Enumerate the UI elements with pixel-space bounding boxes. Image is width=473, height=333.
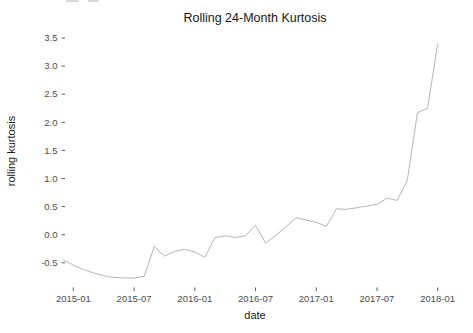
chart-title: Rolling 24-Month Kurtosis — [183, 11, 326, 25]
y-tick-label: 1.0 — [44, 173, 57, 184]
x-axis-ticks: 2015-012015-072016-012016-072017-012017-… — [56, 288, 455, 304]
x-tick-label: 2017-07 — [360, 293, 395, 304]
x-tick-label: 2015-07 — [117, 293, 152, 304]
y-tick-label: 3.5 — [44, 32, 57, 43]
y-tick-label: 0.5 — [44, 201, 57, 212]
x-axis-title: date — [244, 309, 265, 321]
y-axis-ticks: 3.53.02.52.01.51.00.50.0-0.5 — [41, 32, 65, 268]
x-tick-label: 2018-01 — [420, 293, 455, 304]
y-tick-label: 3.0 — [44, 60, 57, 71]
y-tick-label: 0.0 — [44, 229, 57, 240]
y-tick-label: 2.0 — [44, 117, 57, 128]
y-axis-title: rolling kurtosis — [5, 115, 17, 186]
y-tick-label: 1.5 — [44, 145, 57, 156]
kurtosis-chart: Rolling 24-Month Kurtosis rolling kurtos… — [0, 0, 473, 333]
x-tick-label: 2015-01 — [56, 293, 91, 304]
y-tick-label: -0.5 — [41, 257, 57, 268]
y-tick-label: 2.5 — [44, 88, 57, 99]
x-tick-label: 2016-07 — [238, 293, 273, 304]
chart-canvas: Rolling 24-Month Kurtosis rolling kurtos… — [0, 0, 473, 333]
kurtosis-line — [63, 44, 438, 278]
x-tick-label: 2017-01 — [299, 293, 334, 304]
x-tick-label: 2016-01 — [177, 293, 212, 304]
